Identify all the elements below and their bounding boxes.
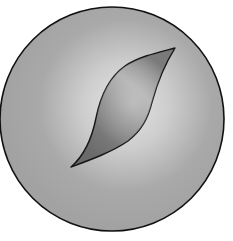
sphere-illustration <box>0 0 233 241</box>
